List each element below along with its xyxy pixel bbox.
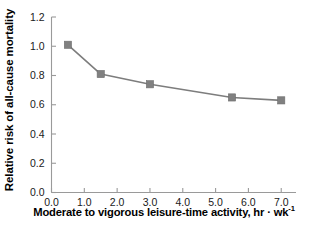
data-point-marker [97,70,104,77]
data-point-marker [278,97,285,104]
y-tick-label: 1.2 [30,11,45,23]
data-point-marker [228,94,235,101]
chart-plot-area: 1.21.00.80.60.40.20.0 0.01.02.03.04.05.0… [0,0,310,232]
x-axis-title-exponent: -1 [288,204,294,213]
y-tick-label-group: 1.21.00.80.60.40.20.0 [30,11,45,199]
data-point-marker [146,81,153,88]
data-series-markers [64,41,285,104]
y-tick-label: 0.2 [30,157,45,169]
y-tick-label: 1.0 [30,40,45,52]
chart-figure: Relative risk of all-cause mortality 1.2… [0,0,310,232]
data-point-marker [64,41,71,48]
y-tick-label: 0.0 [30,186,45,198]
x-axis-title-text: Moderate to vigorous leisure-time activi… [33,206,288,218]
y-tick-label: 0.8 [30,69,45,81]
y-tick-label: 0.6 [30,98,45,110]
y-tick-label: 0.4 [30,128,45,140]
x-tick-mark-group [52,188,282,193]
x-axis-title: Moderate to vigorous leisure-time activi… [18,206,310,218]
y-tick-mark-group [52,17,57,193]
